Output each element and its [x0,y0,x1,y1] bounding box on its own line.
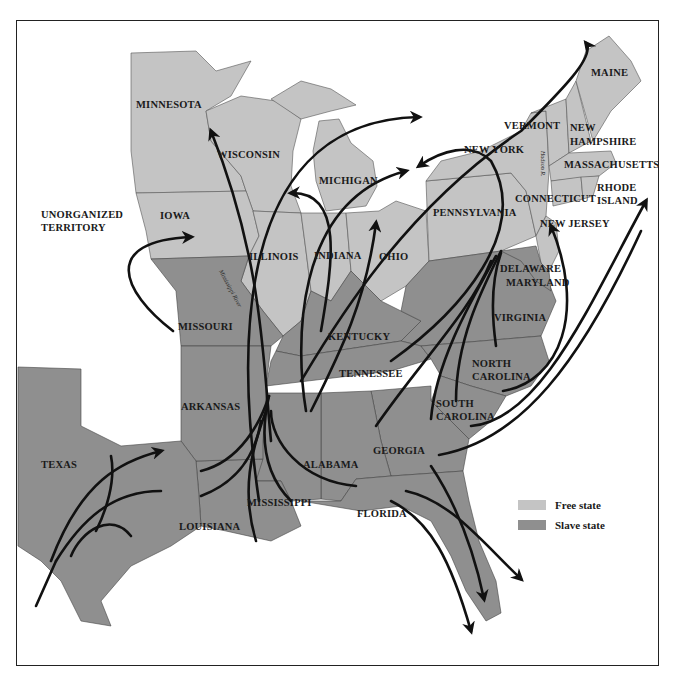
label-florida: FLORIDA [357,508,407,519]
label-missouri: MISSOURI [178,321,233,332]
label-michigan: MICHIGAN [319,175,378,186]
label-iowa: IOWA [160,210,190,221]
label-new-hampshire-1: NEW [570,122,596,133]
label-rhode-island-2: ISLAND [597,195,638,206]
label-vermont: VERMONT [504,120,560,131]
label-unorganized-1: UNORGANIZED [41,209,123,220]
label-alabama: ALABAMA [303,459,359,470]
label-virginia: VIRGINIA [494,312,547,323]
label-north-carolina-2: CAROLINA [472,371,531,382]
label-louisiana: LOUISIANA [179,521,241,532]
hudson-river-label: Hudson R. [540,150,546,176]
legend-label-slave: Slave state [555,519,605,531]
label-tennessee: TENNESSEE [339,368,403,379]
label-kentucky: KENTUCKY [328,331,390,342]
label-new-jersey: NEW JERSEY [540,218,610,229]
slave-state-swatch [518,520,546,530]
label-connecticut: CONNECTICUT [515,193,596,204]
label-pennsylvania: PENNSYLVANIA [433,207,517,218]
free-state-swatch [518,500,546,510]
label-new-hampshire-2: HAMPSHIRE [570,136,637,147]
label-maryland: MARYLAND [506,277,570,288]
label-maine: MAINE [591,67,628,78]
label-arkansas: ARKANSAS [181,401,240,412]
label-illinois: ILLINOIS [249,251,298,262]
label-south-carolina-2: CAROLINA [436,411,495,422]
label-north-carolina-1: NORTH [472,358,511,369]
legend-item-slave: Slave state [518,515,605,535]
label-wisconsin: WISCONSIN [217,149,280,160]
label-minnesota: MINNESOTA [136,99,202,110]
label-mississippi: MISSISSIPPI [247,497,312,508]
label-texas: TEXAS [41,459,77,470]
map-frame: Mississippi River Hudson R. MINNESOTA [16,20,659,666]
label-unorganized-2: TERRITORY [41,222,106,233]
label-new-york: NEW YORK [464,144,525,155]
label-rhode-island-1: RHODE [597,182,637,193]
label-indiana: INDIANA [314,250,362,261]
map-legend: Free state Slave state [518,495,605,535]
label-south-carolina-1: SOUTH [436,398,474,409]
legend-item-free: Free state [518,495,605,515]
label-delaware: DELAWARE [500,263,561,274]
label-georgia: GEORGIA [373,445,425,456]
label-massachusetts: MASSACHUSETTS [564,159,659,170]
map-canvas: Mississippi River Hudson R. MINNESOTA [17,21,659,666]
label-ohio: OHIO [379,251,408,262]
legend-label-free: Free state [555,499,601,511]
